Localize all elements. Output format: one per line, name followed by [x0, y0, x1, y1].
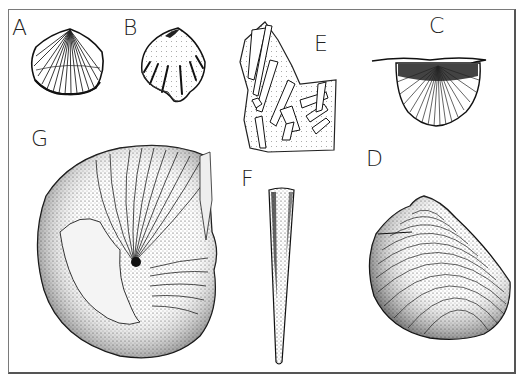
- specimen-d: [369, 196, 510, 339]
- fossil-illustrations: [0, 0, 523, 385]
- specimen-b: [142, 28, 205, 102]
- specimen-g: [37, 145, 216, 357]
- label-f: F: [241, 168, 254, 190]
- label-c: C: [429, 15, 444, 37]
- label-g: G: [31, 128, 48, 150]
- label-d: D: [366, 148, 383, 170]
- specimen-a: [32, 29, 103, 94]
- label-b: B: [123, 17, 137, 39]
- label-a: A: [12, 17, 27, 39]
- specimen-f: [269, 188, 294, 364]
- specimen-c: [372, 58, 486, 126]
- label-e: E: [314, 33, 328, 55]
